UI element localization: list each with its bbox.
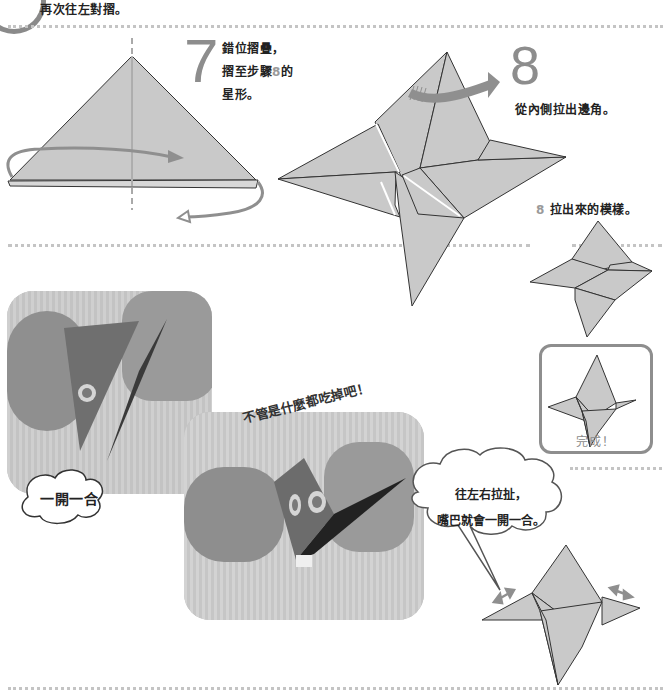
final-star-pull-diagram [0, 0, 666, 690]
